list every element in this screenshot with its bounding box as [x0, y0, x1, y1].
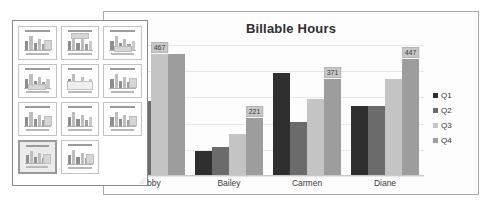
bar-q3[interactable]: 467	[151, 54, 168, 176]
thumbnail-bar	[68, 155, 71, 164]
thumbnail-bar	[115, 74, 118, 88]
chart-layout-thumbnail[interactable]	[61, 26, 100, 60]
thumbnail-legend-right	[44, 40, 52, 50]
bar-group[interactable]: 371	[268, 45, 346, 176]
legend-swatch-icon	[433, 108, 438, 113]
bar-q4[interactable]: 221	[246, 118, 263, 176]
bar-q4[interactable]: 371	[324, 79, 341, 176]
thumbnail-bar	[34, 119, 37, 126]
thumbnail-category-placeholder	[26, 129, 50, 131]
thumbnail-title-placeholder	[110, 68, 135, 70]
bar-q2[interactable]	[368, 106, 385, 176]
chart-layout-thumbnail[interactable]	[18, 26, 57, 60]
thumbnail-chart-preview-icon	[64, 143, 97, 171]
chart-layout-thumbnail[interactable]	[103, 64, 142, 98]
chart-slide-panel[interactable]: Billable Hours 467221371447 AbbyBaileyCa…	[103, 11, 479, 195]
thumbnail-bar	[29, 36, 32, 50]
bar-q1[interactable]	[273, 73, 290, 176]
chart-layout-thumbnail[interactable]	[103, 26, 142, 60]
chart-layout-thumbnail[interactable]	[61, 64, 100, 98]
chart-title: Billable Hours	[104, 21, 478, 36]
bar-q3[interactable]	[229, 134, 246, 176]
bar-q4[interactable]	[168, 54, 185, 176]
thumbnail-chart-preview-icon	[21, 105, 54, 133]
thumbnail-bar	[72, 112, 75, 126]
screenshot-root: Billable Hours 467221371447 AbbyBaileyCa…	[0, 0, 489, 206]
thumbnail-title-placeholder	[68, 30, 93, 32]
thumbnail-data-table	[67, 81, 94, 90]
category-label: Diane	[346, 178, 424, 188]
bar-data-label: 467	[151, 42, 169, 53]
thumbnail-bar	[89, 41, 92, 50]
thumbnail-bar	[119, 119, 122, 126]
bar-data-label: 447	[402, 47, 420, 58]
chart-layout-thumbnail[interactable]	[18, 102, 57, 136]
thumbnail-title-placeholder	[26, 145, 49, 147]
legend-item-q4[interactable]: Q4	[433, 136, 452, 145]
chart-layout-thumbnail[interactable]	[61, 102, 100, 136]
thumbnail-title-placeholder	[110, 30, 135, 32]
thumbnail-bar	[132, 41, 135, 50]
thumbnail-title-placeholder	[68, 68, 93, 70]
bar-q1[interactable]	[351, 106, 368, 176]
thumbnail-bar	[110, 117, 113, 126]
thumbnail-category-placeholder	[111, 129, 135, 131]
thumbnail-bar	[76, 119, 79, 126]
thumbnail-bar	[89, 117, 92, 126]
bar-group[interactable]: 221	[190, 45, 268, 176]
legend-label: Q1	[441, 91, 452, 100]
thumbnail-bar	[81, 153, 84, 164]
thumbnail-bar	[46, 79, 49, 88]
chart-layout-thumbnail[interactable]	[18, 64, 57, 98]
bar-q2[interactable]	[212, 147, 229, 176]
bar-q2[interactable]	[290, 122, 307, 176]
thumbnail-legend-top	[71, 33, 89, 39]
thumbnail-legend-right	[44, 116, 52, 126]
gridline	[112, 176, 424, 177]
thumbnail-bar	[29, 112, 32, 126]
thumbnail-axis	[67, 126, 94, 127]
resize-grip-icon[interactable]	[138, 177, 145, 184]
chart-legend: Q1Q2Q3Q4	[433, 91, 452, 145]
legend-item-q2[interactable]: Q2	[433, 106, 452, 115]
chart-layouts-gallery[interactable]	[12, 20, 148, 186]
thumbnail-bar	[38, 39, 41, 50]
category-axis-labels: AbbyBaileyCarmenDiane	[112, 178, 424, 188]
chart-layout-thumbnail[interactable]	[18, 140, 57, 174]
thumbnail-chart-preview-icon	[106, 67, 139, 95]
thumbnail-bar	[76, 43, 79, 50]
bar-q4[interactable]: 447	[402, 59, 419, 176]
bar-group[interactable]: 447	[346, 45, 424, 176]
thumbnail-chart-preview-icon	[64, 105, 97, 133]
thumbnail-bar	[26, 155, 29, 163]
legend-swatch-icon	[433, 138, 438, 143]
thumbnail-title-placeholder	[110, 106, 135, 108]
legend-item-q1[interactable]: Q1	[433, 91, 452, 100]
chart-layouts-grid	[18, 26, 142, 174]
bar-q3[interactable]	[385, 79, 402, 176]
thumbnail-chart-preview-icon	[22, 144, 53, 170]
chart-layout-thumbnail[interactable]	[61, 140, 100, 174]
thumbnail-title-placeholder	[25, 106, 50, 108]
thumbnail-category-placeholder	[68, 167, 92, 169]
thumbnail-legend-right	[43, 154, 51, 164]
thumbnail-category-placeholder	[26, 53, 50, 55]
bar-q3[interactable]	[307, 99, 324, 176]
thumbnail-legend-right	[129, 116, 137, 126]
chart-layout-thumbnail[interactable]	[103, 102, 142, 136]
legend-swatch-icon	[433, 123, 438, 128]
thumbnail-title-placeholder	[25, 30, 50, 32]
bar-q1[interactable]	[195, 151, 212, 176]
thumbnail-category-placeholder	[111, 91, 135, 93]
thumbnail-chart-preview-icon	[64, 29, 97, 57]
legend-label: Q2	[441, 106, 452, 115]
thumbnail-bar	[72, 150, 75, 164]
thumbnail-category-placeholder	[68, 53, 92, 55]
thumbnail-category-placeholder	[111, 53, 135, 55]
legend-item-q3[interactable]: Q3	[433, 121, 452, 130]
thumbnail-category-placeholder	[26, 166, 48, 168]
thumbnail-bar	[110, 79, 113, 88]
category-axis-line	[112, 175, 424, 176]
thumbnail-category-placeholder	[26, 91, 50, 93]
thumbnail-bar	[115, 112, 118, 126]
